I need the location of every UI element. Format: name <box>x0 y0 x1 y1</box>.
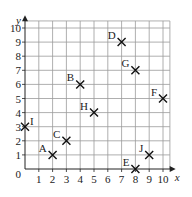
y-tick-label: 5 <box>16 93 22 105</box>
data-point-e: E <box>123 156 140 173</box>
x-tick-label: 8 <box>133 173 139 185</box>
data-point-h: H <box>80 100 98 117</box>
x-tick-label: 2 <box>50 173 56 185</box>
point-label: A <box>39 142 47 154</box>
x-tick-label: 10 <box>158 173 170 185</box>
point-label: I <box>30 115 34 127</box>
data-point-i: I <box>21 115 34 131</box>
x-tick-label: 6 <box>105 173 111 185</box>
y-tick-label: 7 <box>16 64 22 76</box>
data-point-g: G <box>121 57 139 74</box>
point-label: F <box>151 86 157 98</box>
x-tick-label: 3 <box>64 173 70 185</box>
grid-lines <box>25 21 170 169</box>
y-tick-label: 4 <box>16 107 22 119</box>
data-point-b: B <box>67 71 84 88</box>
point-label: H <box>80 100 88 112</box>
data-point-f: F <box>151 86 167 103</box>
point-label: J <box>139 142 144 154</box>
y-tick-label: 8 <box>16 50 22 62</box>
coordinate-grid-chart: 12345678910123456789100xy ABCDEFGHIJ <box>0 0 192 197</box>
data-point-d: D <box>108 29 126 46</box>
x-tick-label: 1 <box>36 173 42 185</box>
point-label: D <box>108 29 116 41</box>
x-tick-label: 4 <box>77 173 83 185</box>
y-axis-label: y <box>15 14 21 26</box>
point-label: C <box>53 128 60 140</box>
x-tick-label: 7 <box>119 173 125 185</box>
data-point-c: C <box>53 128 70 145</box>
data-point-a: A <box>39 142 57 159</box>
tick-labels: 12345678910123456789100xy <box>10 14 180 185</box>
y-tick-label: 3 <box>16 121 22 133</box>
data-point-j: J <box>139 142 153 159</box>
point-label: E <box>123 156 130 168</box>
x-axis-label: x <box>174 171 180 183</box>
y-tick-label: 9 <box>16 36 22 48</box>
y-axis-arrow-icon <box>22 15 28 21</box>
point-label: G <box>121 57 129 69</box>
point-label: B <box>67 71 74 83</box>
y-tick-label: 1 <box>16 149 22 161</box>
origin-label: 0 <box>16 168 22 180</box>
x-tick-label: 9 <box>146 173 152 185</box>
x-tick-label: 5 <box>91 173 97 185</box>
y-tick-label: 2 <box>16 135 22 147</box>
y-tick-label: 6 <box>16 78 22 90</box>
